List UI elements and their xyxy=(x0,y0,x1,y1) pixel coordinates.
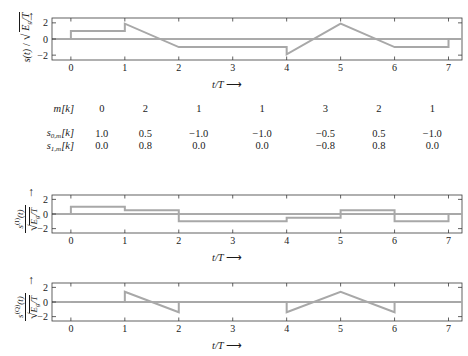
svg-text:7: 7 xyxy=(446,62,451,73)
cell-s1-5: 0.8 xyxy=(357,140,401,153)
cell-s0-3: −1.0 xyxy=(231,127,294,140)
y-axis-fraction-bot: s(Q)(t) √Eg/T xyxy=(14,293,41,321)
svg-text:3: 3 xyxy=(230,235,235,246)
y-axis-label-mid: s(I)(t) √Eg/T xyxy=(20,191,34,247)
cell-m-2: 1 xyxy=(167,103,230,114)
cell-s1-0: 0.0 xyxy=(80,140,124,153)
svg-text:0: 0 xyxy=(68,62,73,73)
svg-text:0: 0 xyxy=(43,34,48,45)
svg-text:2: 2 xyxy=(176,62,181,73)
svg-text:0: 0 xyxy=(68,323,73,334)
svg-text:5: 5 xyxy=(338,323,343,334)
quadrature-signal-plot: 0123456720−2 xyxy=(52,277,462,335)
cell-s1-2: 0.0 xyxy=(167,140,230,153)
svg-text:6: 6 xyxy=(392,235,397,246)
cell-s1-4: −0.8 xyxy=(294,140,357,153)
svg-text:0: 0 xyxy=(43,297,48,308)
svg-text:4: 4 xyxy=(284,62,289,73)
table-row-s1: s1,m[k] 0.0 0.8 0.0 0.0 −0.8 0.8 0.0 xyxy=(30,140,464,153)
x-axis-label-top: t/T ⟶ xyxy=(212,78,241,90)
x-axis-label-bot-arrow: ⟶ xyxy=(226,340,241,351)
y-axis-label-top-text: s(t) xyxy=(21,49,32,62)
x-axis-label-top-text: t/T xyxy=(212,79,223,90)
cell-s0-6: −1.0 xyxy=(401,127,464,140)
svg-text:0: 0 xyxy=(43,209,48,220)
cell-m-3: 1 xyxy=(231,103,294,114)
figure-root: 0123456720−2 ↑ s(t) / √Eg/T t/T ⟶ m[k] 0… xyxy=(0,0,468,356)
svg-text:3: 3 xyxy=(230,62,235,73)
panel-quadrature-signal: 0123456720−2 xyxy=(52,277,462,335)
svg-text:−2: −2 xyxy=(37,50,48,61)
panel-composite-signal: 0123456720−2 xyxy=(52,12,462,74)
svg-text:1: 1 xyxy=(122,235,127,246)
svg-text:5: 5 xyxy=(338,62,343,73)
cell-s0-5: 0.5 xyxy=(357,127,401,140)
cell-s0-0: 1.0 xyxy=(80,127,124,140)
y-axis-label-top: s(t) / √Eg/T xyxy=(19,0,33,87)
table-spacer xyxy=(30,114,464,127)
sqrt-symbol-top: √ xyxy=(19,34,34,41)
row-label-s0: s0,m[k] xyxy=(30,127,80,140)
svg-text:1: 1 xyxy=(122,62,127,73)
table-row-s0: s0,m[k] 1.0 0.5 −1.0 −1.0 −0.5 0.5 −1.0 xyxy=(30,127,464,140)
cell-s0-4: −0.5 xyxy=(294,127,357,140)
y-axis-den-bot: √Eg/T xyxy=(25,293,40,321)
y-axis-fraction-mid: s(I)(t) √Eg/T xyxy=(14,205,41,233)
svg-text:7: 7 xyxy=(446,323,451,334)
svg-text:2: 2 xyxy=(176,323,181,334)
x-axis-label-mid-text: t/T xyxy=(212,252,223,263)
svg-text:2: 2 xyxy=(43,194,48,205)
svg-text:2: 2 xyxy=(43,282,48,293)
svg-text:3: 3 xyxy=(230,323,235,334)
cell-m-1: 2 xyxy=(124,103,168,114)
x-axis-label-top-arrow: ⟶ xyxy=(226,79,241,90)
cell-s0-1: 0.5 xyxy=(124,127,168,140)
svg-text:2: 2 xyxy=(43,17,48,28)
svg-text:7: 7 xyxy=(446,235,451,246)
cell-s1-3: 0.0 xyxy=(231,140,294,153)
cell-s1-1: 0.8 xyxy=(124,140,168,153)
y-axis-den-mid: √Eg/T xyxy=(25,205,40,233)
inphase-signal-plot: 0123456720−2 xyxy=(52,189,462,247)
cell-m-4: 3 xyxy=(294,103,357,114)
cell-m-5: 2 xyxy=(357,103,401,114)
svg-text:1: 1 xyxy=(122,323,127,334)
panel-inphase-signal: 0123456720−2 xyxy=(52,189,462,247)
y-axis-num-bot: s(Q)(t) xyxy=(14,294,25,320)
svg-text:4: 4 xyxy=(284,235,289,246)
svg-text:4: 4 xyxy=(284,323,289,334)
y-axis-slash-top: / xyxy=(21,43,32,46)
y-axis-label-bot: s(Q)(t) √Eg/T xyxy=(20,279,34,335)
symbol-table: m[k] 0 2 1 1 3 2 1 s0,m[k] 1.0 0.5 −1.0 … xyxy=(30,103,464,152)
x-axis-label-bot-text: t/T xyxy=(212,340,223,351)
row-label-m: m[k] xyxy=(30,103,80,114)
svg-text:6: 6 xyxy=(392,323,397,334)
cell-m-6: 1 xyxy=(401,103,464,114)
cell-s0-2: −1.0 xyxy=(167,127,230,140)
cell-s1-6: 0.0 xyxy=(401,140,464,153)
composite-signal-plot: 0123456720−2 xyxy=(52,12,462,74)
svg-text:0: 0 xyxy=(68,235,73,246)
sqrt-radicand-top: Eg/T xyxy=(19,12,33,32)
x-axis-label-bot: t/T ⟶ xyxy=(212,339,241,351)
x-axis-label-mid: t/T ⟶ xyxy=(212,251,241,263)
row-label-s1: s1,m[k] xyxy=(30,140,80,153)
svg-text:6: 6 xyxy=(392,62,397,73)
table-row-symbols: m[k] 0 2 1 1 3 2 1 xyxy=(30,103,464,114)
svg-text:2: 2 xyxy=(176,235,181,246)
y-axis-num-mid: s(I)(t) xyxy=(14,208,25,231)
svg-text:5: 5 xyxy=(338,235,343,246)
cell-m-0: 0 xyxy=(80,103,124,114)
x-axis-label-mid-arrow: ⟶ xyxy=(226,252,241,263)
